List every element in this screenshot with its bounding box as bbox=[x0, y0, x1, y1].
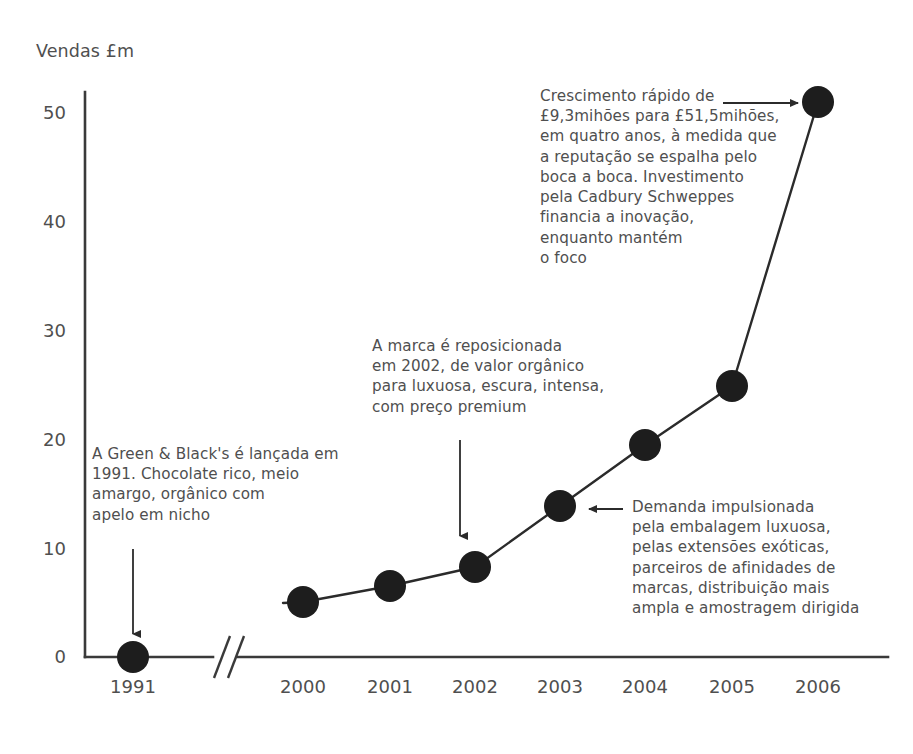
x-tick-label-2006: 2006 bbox=[773, 676, 863, 697]
x-tick-label-2002: 2002 bbox=[430, 676, 520, 697]
data-point-2003 bbox=[544, 490, 576, 522]
annotation-repositioning: A marca é reposicionada em 2002, de valo… bbox=[372, 336, 604, 417]
sales-line-chart: Vendas £m 50 40 30 20 10 0 1991 2000 200… bbox=[0, 0, 913, 754]
x-tick-label-2003: 2003 bbox=[515, 676, 605, 697]
data-point-2004 bbox=[629, 429, 661, 461]
data-point-2006 bbox=[802, 86, 834, 118]
x-tick-label-2005: 2005 bbox=[687, 676, 777, 697]
x-tick-label-2000: 2000 bbox=[258, 676, 348, 697]
y-tick-label-30: 30 bbox=[22, 320, 66, 341]
annotation-rapid-growth: Crescimento rápido de £9,3mihões para £5… bbox=[540, 86, 779, 268]
data-point-2002 bbox=[459, 551, 491, 583]
data-point-1991 bbox=[117, 641, 149, 673]
data-point-2005 bbox=[716, 370, 748, 402]
y-tick-label-10: 10 bbox=[22, 538, 66, 559]
y-tick-label-0: 0 bbox=[22, 646, 66, 667]
x-tick-label-2004: 2004 bbox=[600, 676, 690, 697]
annotation-launch: A Green & Black's é lançada em 1991. Cho… bbox=[92, 444, 339, 525]
y-axis-title: Vendas £m bbox=[36, 40, 134, 63]
data-point-2000 bbox=[287, 586, 319, 618]
data-point-2001 bbox=[374, 570, 406, 602]
y-tick-label-40: 40 bbox=[22, 211, 66, 232]
y-tick-label-50: 50 bbox=[22, 102, 66, 123]
x-tick-label-2001: 2001 bbox=[345, 676, 435, 697]
x-tick-label-1991: 1991 bbox=[88, 676, 178, 697]
y-tick-label-20: 20 bbox=[22, 429, 66, 450]
annotation-demand: Demanda impulsionada pela embalagem luxu… bbox=[632, 497, 860, 618]
